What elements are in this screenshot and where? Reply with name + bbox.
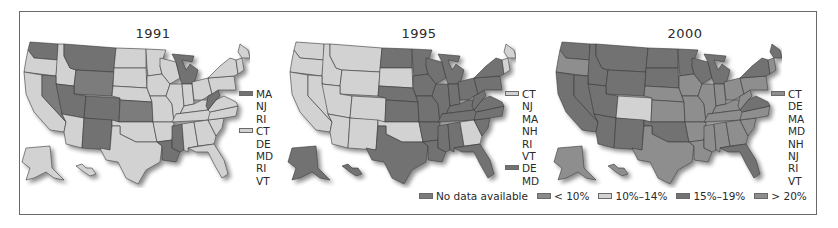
small-state-label: MA <box>522 113 539 125</box>
small-state-label: NH <box>522 125 539 137</box>
state-ny <box>208 58 238 78</box>
state-fl <box>188 144 228 178</box>
state-in <box>448 84 460 106</box>
state-mt <box>596 44 648 72</box>
small-state-label: DE <box>256 138 273 150</box>
legend-swatch <box>598 193 612 199</box>
state-pa <box>474 76 502 94</box>
state-ar <box>419 122 440 142</box>
legend-swatch <box>505 91 519 96</box>
small-state-label: NH <box>788 138 805 150</box>
state-hi <box>608 164 628 176</box>
small-state-label: RI <box>522 138 539 150</box>
state-me <box>238 44 250 58</box>
small-state-label: MA <box>788 113 805 125</box>
state-nd <box>380 48 412 68</box>
legend-swatch <box>239 91 253 96</box>
legend-item-nodata: No data available <box>419 190 528 202</box>
state-nm <box>348 118 378 150</box>
state-ar <box>685 122 706 142</box>
small-state-label: NJ <box>522 100 539 112</box>
small-state-label: MD <box>788 125 805 137</box>
small-state-label: VT <box>522 150 539 162</box>
state-ar <box>153 122 174 142</box>
legend-swatch <box>419 193 433 199</box>
state-ak <box>22 146 64 180</box>
legend-swatch <box>676 193 690 199</box>
small-state-label: NJ <box>788 150 805 162</box>
small-state-label: RI <box>256 113 273 125</box>
map-panel-1995: 1995 CTNJMANHRIVTDEMD <box>286 12 552 192</box>
state-fl <box>720 144 760 178</box>
legend-label: 10%–14% <box>615 190 667 202</box>
legend-swatch <box>537 193 551 199</box>
state-ny <box>474 58 504 78</box>
state-in <box>182 84 194 106</box>
legend-label: > 20% <box>771 190 806 202</box>
state-sd <box>379 68 413 88</box>
small-state-label: CT <box>256 125 273 137</box>
state-ks <box>651 100 685 122</box>
figure-frame: 1991 MANJRICTDEMDRIVT 1995 CTNJMANHRIVTD… <box>19 11 817 215</box>
legend-item-lt10: < 10% <box>537 190 589 202</box>
state-me <box>504 44 516 58</box>
legend-swatch <box>505 165 519 170</box>
state-pa <box>208 76 236 94</box>
us-map-1991 <box>20 38 250 188</box>
small-states-legend: CTDEMAMDNHNJRIVT <box>788 88 805 187</box>
small-state-label: CT <box>522 88 539 100</box>
state-me <box>770 44 782 58</box>
state-hi <box>76 164 96 176</box>
legend-label: < 10% <box>554 190 589 202</box>
state-mt <box>330 44 382 72</box>
legend-label: 15%–19% <box>693 190 745 202</box>
small-states-legend: MANJRICTDEMDRIVT <box>256 88 273 187</box>
small-state-label: DE <box>522 162 539 174</box>
state-az <box>594 114 616 148</box>
legend-swatch <box>771 91 785 96</box>
state-hi <box>342 164 362 176</box>
small-state-label: VT <box>788 175 805 187</box>
state-ny <box>740 58 770 78</box>
state-in <box>714 84 726 106</box>
legend-item-gt20: > 20% <box>754 190 806 202</box>
small-state-label: NJ <box>256 100 273 112</box>
state-fl <box>454 144 494 178</box>
state-ak <box>554 146 596 180</box>
state-az <box>62 114 84 148</box>
state-sd <box>113 68 147 88</box>
map-panel-2000: 2000 CTDEMAMDNHNJRIVT <box>552 12 818 192</box>
us-map-1995 <box>286 38 516 188</box>
state-mt <box>64 44 116 72</box>
map-panel-1991: 1991 MANJRICTDEMDRIVT <box>20 12 286 192</box>
small-states-legend: CTNJMANHRIVTDEMD <box>522 88 539 187</box>
state-wy <box>74 70 114 96</box>
legend-swatch <box>754 193 768 199</box>
state-nd <box>646 48 678 68</box>
legend-item-15-19: 15%–19% <box>676 190 745 202</box>
category-legend: No data available< 10%10%–14%15%–19%> 20… <box>419 190 807 202</box>
state-nm <box>614 118 644 150</box>
state-ks <box>385 100 419 122</box>
state-wy <box>340 70 380 96</box>
state-sd <box>645 68 679 88</box>
small-state-label: DE <box>788 100 805 112</box>
legend-item-10-14: 10%–14% <box>598 190 667 202</box>
state-nm <box>82 118 112 150</box>
state-ak <box>288 146 330 180</box>
small-state-label: RI <box>788 162 805 174</box>
state-wy <box>606 70 646 96</box>
us-map-2000 <box>552 38 782 188</box>
state-pa <box>740 76 768 94</box>
small-state-label: RI <box>256 162 273 174</box>
small-state-label: VT <box>256 175 273 187</box>
small-state-label: MD <box>256 150 273 162</box>
small-state-label: MD <box>522 175 539 187</box>
state-ks <box>119 100 153 122</box>
state-az <box>328 114 350 148</box>
state-nd <box>114 48 146 68</box>
small-state-label: CT <box>788 88 805 100</box>
small-state-label: MA <box>256 88 273 100</box>
legend-swatch <box>239 128 253 133</box>
legend-label: No data available <box>436 190 528 202</box>
